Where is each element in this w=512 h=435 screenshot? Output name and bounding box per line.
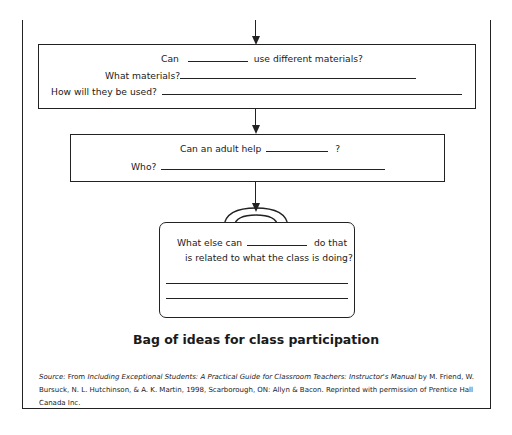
adult-help-prefix: Can an adult help [180, 143, 261, 154]
who-label: Who? [131, 161, 156, 172]
adult-help-question: Can an adult help ? [180, 142, 340, 154]
how-used-blank[interactable] [162, 85, 462, 95]
arrow-down-icon [252, 125, 260, 134]
source-citation: Source: From Including Exceptional Stude… [39, 371, 499, 410]
how-used-row: How will they be used? [51, 85, 462, 97]
source-title: Including Exceptional Students: A Practi… [87, 373, 416, 381]
bag-question-prefix: What else can [177, 237, 242, 248]
how-used-label: How will they be used? [51, 86, 157, 97]
who-row: Who? [131, 160, 385, 172]
arrow-shaft-3 [255, 182, 256, 204]
bag-answer-line-2[interactable] [166, 298, 348, 299]
materials-question-prefix: Can [161, 53, 179, 64]
bag-question-suffix: do that [314, 237, 347, 248]
who-blank[interactable] [161, 160, 385, 170]
student-name-blank[interactable] [188, 52, 248, 62]
source-label: Source: [39, 373, 66, 381]
ideas-bag: What else can do that is related to what… [159, 222, 355, 318]
materials-box: Can use different materials? What materi… [38, 44, 476, 109]
what-materials-label: What materials? [105, 70, 180, 81]
adult-help-suffix: ? [335, 143, 340, 154]
adult-help-blank[interactable] [266, 142, 328, 152]
bag-question-line1: What else can do that [177, 236, 347, 248]
bag-answer-line-1[interactable] [166, 283, 348, 284]
adult-help-box: Can an adult help ? Who? [70, 134, 445, 182]
arrow-shaft-2 [255, 109, 256, 126]
bag-student-blank[interactable] [247, 236, 307, 246]
what-materials-row: What materials? [105, 69, 416, 81]
materials-question-suffix: use different materials? [254, 53, 363, 64]
arrow-shaft-1 [255, 20, 256, 37]
figure-caption: Bag of ideas for class participation [0, 332, 512, 347]
bag-question-line2: is related to what the class is doing? [185, 252, 353, 263]
source-from: From [68, 373, 85, 381]
materials-question: Can use different materials? [161, 52, 363, 64]
what-materials-blank[interactable] [180, 69, 416, 79]
